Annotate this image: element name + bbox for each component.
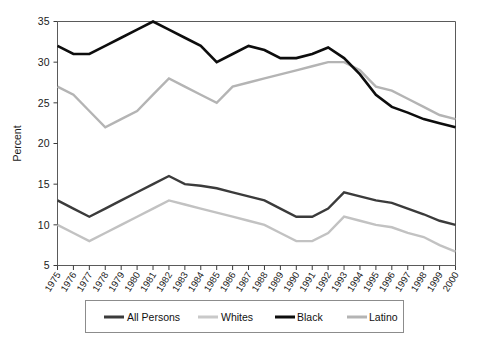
x-tick-label: 2000 [440, 270, 461, 294]
y-axis: 5101520253035 [38, 15, 58, 271]
line-chart: 5101520253035Percent19751976197719781979… [0, 0, 488, 346]
y-tick-label: 10 [38, 219, 50, 231]
legend-label: Latino [369, 311, 398, 323]
x-tick-label: 1976 [58, 270, 79, 294]
y-axis-label: Percent [11, 125, 23, 161]
x-tick-label: 1978 [90, 270, 111, 294]
x-tick-label: 1985 [201, 270, 222, 294]
x-tick-label: 1989 [265, 270, 286, 294]
x-tick-label: 1975 [42, 270, 63, 294]
legend-label: Black [297, 311, 323, 323]
x-tick-label: 1981 [138, 270, 159, 294]
x-tick-label: 1997 [392, 270, 413, 294]
legend-label: Whites [221, 311, 253, 323]
x-tick-label: 1995 [361, 270, 382, 294]
x-tick-label: 1993 [329, 270, 350, 294]
x-axis: 1975197619771978197919801981198219831984… [42, 266, 461, 294]
series-line-whites [58, 200, 456, 251]
y-tick-label: 5 [44, 259, 50, 271]
x-tick-label: 1991 [297, 270, 318, 294]
y-tick-label: 35 [38, 15, 50, 27]
y-tick-label: 30 [38, 56, 50, 68]
x-tick-label: 1992 [313, 270, 334, 294]
x-tick-label: 1987 [233, 270, 254, 294]
x-tick-label: 1983 [170, 270, 191, 294]
x-tick-label: 1988 [249, 270, 270, 294]
chart-legend: All PersonsWhitesBlackLatino [86, 301, 404, 333]
x-tick-label: 1996 [376, 270, 397, 294]
x-tick-label: 1979 [106, 270, 127, 294]
x-tick-label: 1999 [424, 270, 445, 294]
series-line-latino [58, 62, 456, 127]
x-tick-label: 1980 [122, 270, 143, 294]
x-tick-label: 1998 [408, 270, 429, 294]
y-tick-label: 15 [38, 178, 50, 190]
y-tick-label: 25 [38, 97, 50, 109]
legend-label: All Persons [127, 311, 180, 323]
x-tick-label: 1994 [345, 270, 366, 294]
chart-figure: 5101520253035Percent19751976197719781979… [0, 0, 488, 346]
x-tick-label: 1982 [154, 270, 175, 294]
x-tick-label: 1977 [74, 270, 95, 294]
series-line-all-persons [58, 176, 456, 225]
x-tick-label: 1986 [217, 270, 238, 294]
series-line-black [58, 22, 456, 128]
x-tick-label: 1984 [185, 270, 206, 294]
y-tick-label: 20 [38, 137, 50, 149]
series-group [58, 22, 456, 252]
x-tick-label: 1990 [281, 270, 302, 294]
